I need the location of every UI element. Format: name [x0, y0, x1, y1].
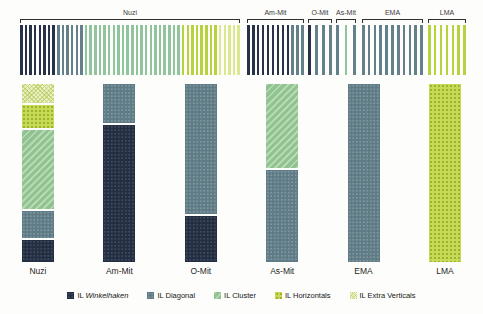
strip-bar-cluster — [131, 25, 134, 75]
strip-bar-extra_verticals — [219, 25, 222, 75]
group-bracket-icon — [428, 19, 466, 23]
legend-item-horizontals: IL Horizontals — [275, 291, 331, 300]
legend-label-prefix: IL — [285, 291, 293, 300]
strip-bar-cluster — [159, 25, 162, 75]
strip-bar-horizontals — [457, 25, 460, 75]
bar-segment-diagonal — [266, 170, 298, 262]
strip-bar-diagonal — [397, 25, 400, 75]
strip-bar-horizontals — [452, 25, 455, 75]
legend-item-diagonal: IL Diagonal — [147, 291, 195, 300]
strip-bar-diagonal — [368, 25, 371, 75]
strip-bar-cluster — [150, 25, 153, 75]
x-axis-labels: NuziAm-MitO-MitAs-MitEMALMA — [22, 266, 461, 276]
strip-bar-winkelhaken — [252, 25, 255, 75]
strip-bar-row — [247, 25, 304, 75]
bar-column-am-mit — [103, 84, 135, 262]
strip-group-lma: LMA — [428, 8, 466, 75]
strip-bar-row — [308, 25, 332, 75]
bar-column-lma — [429, 84, 461, 262]
legend-label-prefix: IL — [77, 291, 85, 300]
strip-bar-horizontals — [428, 25, 431, 75]
strip-bar-winkelhaken — [308, 25, 311, 75]
bar-column-o-mit — [185, 84, 217, 262]
x-label-text: O-Mit — [190, 266, 211, 276]
legend-swatch-extra_verticals-icon — [350, 292, 357, 299]
strip-bar-diagonal — [409, 25, 412, 75]
strip-bar-winkelhaken — [282, 25, 285, 75]
strip-bar-diagonal — [391, 25, 394, 75]
legend-label-name: Extra Verticals — [368, 291, 416, 300]
legend-label: IL Extra Verticals — [360, 291, 416, 300]
strip-bar-cluster — [163, 25, 166, 75]
x-label-lma: LMA — [429, 266, 461, 276]
stacked-bar-area — [22, 84, 461, 262]
bar-segment-diagonal — [22, 211, 54, 238]
strip-group-nuzi: Nuzi — [20, 8, 240, 75]
strip-bar-cluster — [154, 25, 157, 75]
legend-swatch-horizontals-icon — [275, 292, 282, 299]
strip-bar-horizontals — [446, 25, 449, 75]
strip-bar-extra_verticals — [233, 25, 236, 75]
strip-bar-winkelhaken — [272, 25, 275, 75]
strip-bar-horizontals — [191, 25, 194, 75]
strip-bar-diagonal — [403, 25, 406, 75]
legend-label: IL Horizontals — [285, 291, 331, 300]
group-bracket-icon — [308, 19, 332, 23]
group-bracket-icon — [20, 19, 240, 23]
strip-bar-winkelhaken — [267, 25, 270, 75]
strip-bar-cluster — [173, 25, 176, 75]
strip-bar-winkelhaken — [277, 25, 280, 75]
strip-bar-diagonal — [296, 25, 299, 75]
x-label-as-mit: As-Mit — [266, 266, 298, 276]
strip-bar-winkelhaken — [29, 25, 32, 75]
strip-bar-winkelhaken — [287, 25, 290, 75]
strip-bar-extra_verticals — [237, 25, 240, 75]
x-label-am-mit: Am-Mit — [103, 266, 135, 276]
x-label-ema: EMA — [348, 266, 380, 276]
strip-group-label: As-Mit — [336, 8, 356, 18]
strip-bar-winkelhaken — [39, 25, 42, 75]
legend-label-prefix: IL — [224, 291, 232, 300]
legend: IL WinkelhakenIL DiagonalIL ClusterIL Ho… — [0, 291, 483, 300]
legend-label: IL Diagonal — [157, 291, 195, 300]
strip-bar-horizontals — [210, 25, 213, 75]
bar-segment-extra_verticals — [22, 84, 54, 103]
strip-bar-horizontals — [434, 25, 437, 75]
x-label-text: As-Mit — [270, 266, 294, 276]
legend-swatch-winkelhaken-icon — [67, 292, 74, 299]
strip-bar-winkelhaken — [43, 25, 46, 75]
strip-bar-cluster — [345, 25, 348, 75]
strip-bar-diagonal — [329, 25, 332, 75]
strip-bar-diagonal — [385, 25, 388, 75]
bar-column-as-mit — [266, 84, 298, 262]
strip-bar-horizontals — [440, 25, 443, 75]
strip-bar-cluster — [113, 25, 116, 75]
strip-bar-horizontals — [196, 25, 199, 75]
strip-group-label: EMA — [362, 8, 423, 18]
strip-group-label: Nuzi — [20, 8, 240, 18]
bar-segment-winkelhaken — [103, 125, 135, 262]
group-bracket-icon — [336, 19, 356, 23]
strip-bar-horizontals — [200, 25, 203, 75]
strip-bar-cluster — [85, 25, 88, 75]
strip-bar-diagonal — [66, 25, 69, 75]
bar-column-nuzi — [22, 84, 54, 262]
strip-bar-diagonal — [420, 25, 423, 75]
legend-swatch-diagonal-icon — [147, 292, 154, 299]
bar-segment-diagonal — [103, 84, 135, 123]
strip-bar-diagonal — [379, 25, 382, 75]
strip-group-label: O-Mit — [308, 8, 332, 18]
strip-bar-row — [336, 25, 356, 75]
strip-bar-extra_verticals — [228, 25, 231, 75]
group-bracket-icon — [247, 19, 304, 23]
legend-label: IL Cluster — [224, 291, 256, 300]
strip-bar-cluster — [117, 25, 120, 75]
bar-segment-winkelhaken — [185, 216, 217, 262]
legend-item-extra_verticals: IL Extra Verticals — [350, 291, 416, 300]
bar-segment-horizontals — [429, 84, 461, 262]
bar-column-ema — [348, 84, 380, 262]
strip-bar-cluster — [140, 25, 143, 75]
bar-segment-diagonal — [185, 84, 217, 214]
x-label-text: EMA — [354, 266, 372, 276]
strip-group-o-mit: O-Mit — [308, 8, 332, 75]
